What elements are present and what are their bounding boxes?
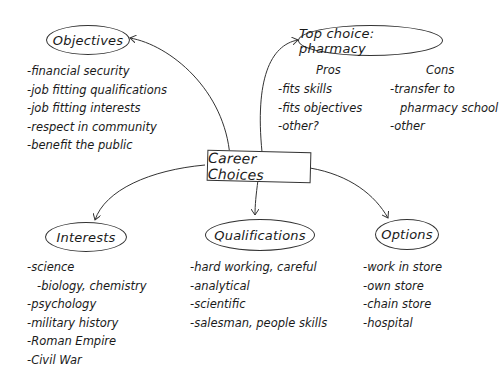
list-item: -fits objectives (278, 99, 362, 118)
list-item: -transfer to (390, 80, 498, 99)
pros-header: Pros (316, 63, 341, 77)
list-item: -science (27, 258, 147, 277)
objectives-list: -financial security -job fitting qualifi… (27, 62, 167, 155)
node-interests: Interests (45, 222, 127, 252)
qualifications-label: Qualifications (214, 228, 305, 243)
pros-list: -fits skills -fits objectives -other? (278, 80, 362, 136)
list-item: -hospital (363, 314, 442, 333)
center-label: Career Choices (208, 149, 311, 184)
options-label: Options (381, 227, 433, 242)
list-item: -other? (278, 117, 362, 136)
cons-list: -transfer to pharmacy school -other (390, 80, 498, 136)
objectives-label: Objectives (53, 33, 123, 48)
center-node-career-choices: Career Choices (207, 150, 312, 184)
qualifications-list: -hard working, careful -analytical -scie… (190, 258, 327, 332)
list-item: -job fitting qualifications (27, 81, 167, 100)
list-item: -other (390, 117, 498, 136)
list-item: -own store (363, 277, 442, 296)
list-item: -job fitting interests (27, 99, 167, 118)
options-list: -work in store -own store -chain store -… (363, 258, 442, 332)
list-item: -respect in community (27, 118, 167, 137)
top-choice-label: Top choice: pharmacy (299, 26, 442, 56)
list-item: -biology, chemistry (27, 277, 147, 296)
list-item: -chain store (363, 295, 442, 314)
list-item: pharmacy school (390, 99, 498, 118)
cons-header: Cons (426, 63, 454, 77)
node-options: Options (375, 219, 439, 250)
interests-label: Interests (57, 230, 116, 245)
list-item: -Civil War (27, 351, 147, 370)
list-item: -work in store (363, 258, 442, 277)
list-item: -military history (27, 314, 147, 333)
list-item: -financial security (27, 62, 167, 81)
node-top-choice: Top choice: pharmacy (298, 25, 443, 56)
list-item: -Roman Empire (27, 332, 147, 351)
node-objectives: Objectives (46, 25, 130, 55)
list-item: -psychology (27, 295, 147, 314)
interests-list: -science -biology, chemistry -psychology… (27, 258, 147, 369)
list-item: -salesman, people skills (190, 314, 327, 333)
list-item: -fits skills (278, 80, 362, 99)
list-item: -hard working, careful (190, 258, 327, 277)
node-qualifications: Qualifications (205, 219, 315, 251)
list-item: -scientific (190, 295, 327, 314)
list-item: -analytical (190, 277, 327, 296)
list-item: -benefit the public (27, 136, 167, 155)
